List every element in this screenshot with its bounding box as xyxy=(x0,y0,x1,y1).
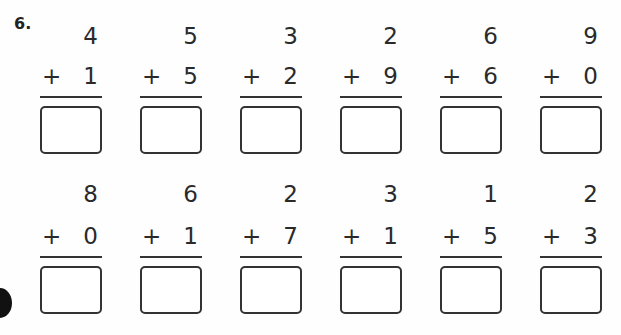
answer-box[interactable] xyxy=(240,266,302,314)
addend: 1 xyxy=(383,222,398,250)
plus-sign: + xyxy=(542,222,561,250)
addend: 1 xyxy=(183,222,198,250)
sum-line xyxy=(440,256,502,258)
answer-box[interactable] xyxy=(40,266,102,314)
sum-line xyxy=(140,256,202,258)
plus-sign: + xyxy=(242,222,261,250)
sum-line xyxy=(40,256,102,258)
augend: 2 xyxy=(583,180,598,208)
addition-problem: 8 + 0 xyxy=(40,0,102,160)
addition-problem: 2 + 7 xyxy=(240,0,302,160)
augend: 2 xyxy=(283,180,298,208)
augend: 1 xyxy=(483,180,498,208)
augend: 3 xyxy=(383,180,398,208)
plus-sign: + xyxy=(442,222,461,250)
margin-dot xyxy=(0,288,12,318)
addend: 0 xyxy=(83,222,98,250)
sum-line xyxy=(240,256,302,258)
exercise-number: 6. xyxy=(14,14,31,33)
addition-problem: 1 + 5 xyxy=(440,0,502,160)
addend: 7 xyxy=(283,222,298,250)
sum-line xyxy=(340,256,402,258)
answer-box[interactable] xyxy=(540,266,602,314)
augend: 6 xyxy=(183,180,198,208)
addend: 5 xyxy=(483,222,498,250)
answer-box[interactable] xyxy=(140,266,202,314)
addend: 3 xyxy=(583,222,598,250)
answer-box[interactable] xyxy=(440,266,502,314)
sum-line xyxy=(540,256,602,258)
augend: 8 xyxy=(83,180,98,208)
addition-problem: 6 + 1 xyxy=(140,0,202,160)
plus-sign: + xyxy=(42,222,61,250)
plus-sign: + xyxy=(342,222,361,250)
plus-sign: + xyxy=(142,222,161,250)
answer-box[interactable] xyxy=(340,266,402,314)
addition-problem: 3 + 1 xyxy=(340,0,402,160)
addition-problem: 2 + 3 xyxy=(540,0,602,160)
